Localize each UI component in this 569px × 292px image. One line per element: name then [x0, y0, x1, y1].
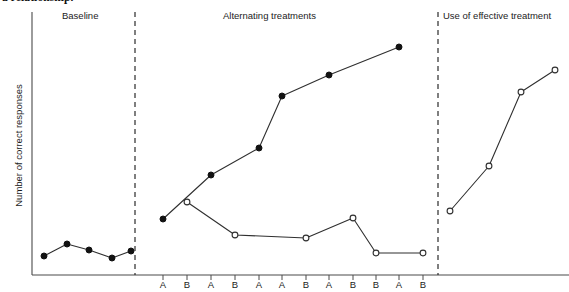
x-tick-label-2: A — [204, 279, 218, 292]
data-point-effective-treatment-0 — [447, 208, 453, 214]
data-point-baseline-3 — [109, 255, 115, 261]
x-tick-label-6: B — [299, 279, 313, 292]
chart-plot-area — [0, 0, 569, 292]
x-tick-label-9: B — [369, 279, 383, 292]
data-point-alternating-treatment-B-0 — [184, 199, 190, 205]
x-tick-label-11: B — [416, 279, 430, 292]
data-point-effective-treatment-2 — [518, 89, 524, 95]
data-point-alternating-treatment-A-4 — [326, 72, 332, 78]
data-point-baseline-4 — [128, 248, 134, 254]
figure-root: a relationship. BaselineAlternating trea… — [0, 0, 569, 292]
series-line-alternating-treatment-B — [187, 202, 423, 253]
data-point-alternating-treatment-A-0 — [160, 216, 166, 222]
data-point-baseline-0 — [41, 253, 47, 259]
data-point-alternating-treatment-A-3 — [279, 93, 285, 99]
series-alternating-treatment-A — [160, 44, 402, 222]
data-point-effective-treatment-1 — [486, 163, 492, 169]
x-tick-label-0: A — [156, 279, 170, 292]
data-point-alternating-treatment-A-2 — [256, 145, 262, 151]
data-point-effective-treatment-3 — [552, 67, 558, 73]
data-point-alternating-treatment-B-1 — [232, 232, 238, 238]
series-line-alternating-treatment-A — [163, 47, 399, 219]
x-tick-label-1: B — [180, 279, 194, 292]
x-tick-label-4: A — [252, 279, 266, 292]
data-point-baseline-2 — [86, 247, 92, 253]
x-tick-label-10: A — [392, 279, 406, 292]
data-point-alternating-treatment-A-5 — [396, 44, 402, 50]
data-point-alternating-treatment-B-4 — [373, 250, 379, 256]
data-point-alternating-treatment-A-1 — [208, 172, 214, 178]
series-alternating-treatment-B — [184, 199, 426, 256]
series-line-effective-treatment — [450, 70, 555, 211]
data-point-alternating-treatment-B-5 — [420, 250, 426, 256]
x-tick-label-7: A — [322, 279, 336, 292]
x-tick-label-8: B — [346, 279, 360, 292]
data-point-alternating-treatment-B-2 — [303, 235, 309, 241]
series-effective-treatment — [447, 67, 558, 214]
data-point-alternating-treatment-B-3 — [350, 215, 356, 221]
x-tick-label-3: B — [228, 279, 242, 292]
series-baseline — [41, 241, 134, 261]
x-tick-label-5: A — [275, 279, 289, 292]
data-point-baseline-1 — [64, 241, 70, 247]
